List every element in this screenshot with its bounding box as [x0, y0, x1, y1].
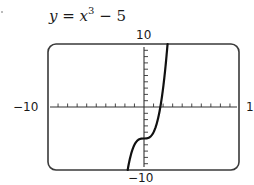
axes: [50, 47, 237, 167]
graph-window: [0, 0, 254, 185]
